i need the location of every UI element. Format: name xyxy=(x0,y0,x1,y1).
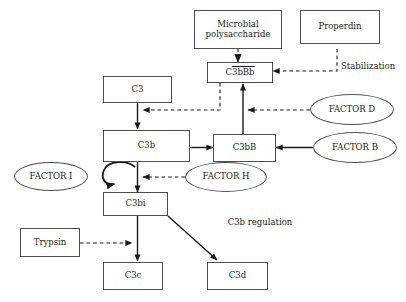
c3b-regulation-label: C3b regulation xyxy=(228,218,293,228)
node-microbial-polysaccharide[interactable]: Microbial polysaccharide xyxy=(194,10,282,49)
node-trypsin[interactable]: Trypsin xyxy=(20,228,80,257)
node-c3[interactable]: C3 xyxy=(103,76,172,103)
node-c3bi[interactable]: C3bi xyxy=(103,192,168,216)
c3bb-label: C3bB xyxy=(233,143,257,153)
annotation-c3b-regulation: C3b regulation xyxy=(214,216,306,230)
edge-factor-i-loop xyxy=(103,162,135,184)
node-c3d[interactable]: C3d xyxy=(207,262,268,290)
microbial-label-line2: polysaccharide xyxy=(206,30,271,40)
node-c3c[interactable]: C3c xyxy=(103,262,163,290)
node-properdin[interactable]: Properdin xyxy=(300,10,380,44)
node-factor-b[interactable]: FACTOR B xyxy=(313,132,397,163)
annotation-stabilization: Stabilization xyxy=(341,60,405,74)
c3d-label: C3d xyxy=(229,271,246,281)
c3bbb-label-overline: 3bBb xyxy=(232,67,255,77)
node-factor-i[interactable]: FACTOR I xyxy=(14,162,88,191)
node-factor-d[interactable]: FACTOR D xyxy=(310,94,394,125)
c3c-label: C3c xyxy=(125,271,142,281)
node-c3bb[interactable]: C3bB xyxy=(213,134,276,162)
c3bi-label: C3bi xyxy=(125,199,145,209)
c3b-label: C3b xyxy=(138,141,155,151)
properdin-label: Properdin xyxy=(318,22,361,32)
edge-c3bi-to-c3d xyxy=(168,216,217,260)
pathway-diagram: Microbial polysaccharide Properdin C3bBb… xyxy=(0,0,406,302)
c3-label: C3 xyxy=(132,85,144,95)
factor-b-label: FACTOR B xyxy=(332,143,378,153)
edge-properdin-to-c3bbb xyxy=(273,49,337,71)
factor-i-label: FACTOR I xyxy=(30,172,73,182)
c3bbb-label: C3bBb xyxy=(225,68,254,78)
node-factor-h[interactable]: FACTOR H xyxy=(185,162,267,192)
node-c3bbb[interactable]: C3bBb xyxy=(207,62,273,83)
trypsin-label: Trypsin xyxy=(34,238,67,248)
factor-d-label: FACTOR D xyxy=(329,105,375,115)
stabilization-label: Stabilization xyxy=(341,62,395,72)
node-c3b[interactable]: C3b xyxy=(103,130,190,162)
factor-h-label: FACTOR H xyxy=(203,172,250,182)
